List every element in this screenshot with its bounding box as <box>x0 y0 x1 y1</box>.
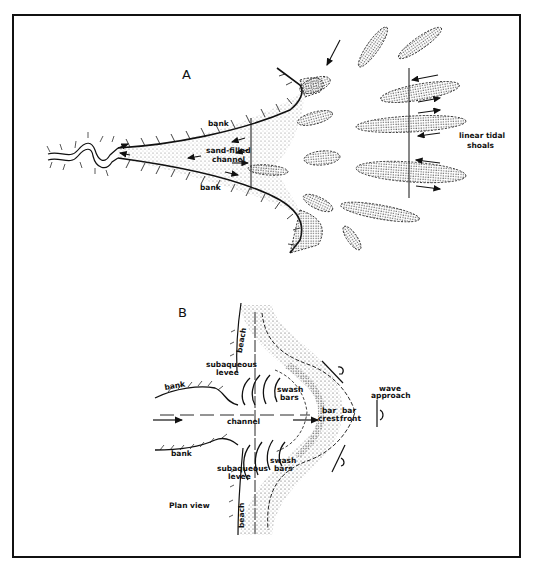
label-channel: channel <box>227 417 260 426</box>
label-bar-front-2: front <box>340 414 361 423</box>
panel-b-letter: B <box>178 305 187 320</box>
label-levee-top-2: levee <box>216 368 239 377</box>
label-plan-view: Plan view <box>169 501 210 510</box>
label-swash-top-2: bars <box>280 393 299 402</box>
label-channel-1: sand-filled <box>206 146 251 155</box>
label-shoals-1: linear tidal <box>459 131 505 140</box>
label-bank-bottom: bank <box>200 183 222 192</box>
panel-a: A <box>47 23 505 253</box>
label-bank-top: bank <box>208 119 230 128</box>
meandering-river <box>48 143 118 167</box>
label-channel-2: channel <box>212 155 245 164</box>
label-wave-2: approach <box>371 391 411 400</box>
panel-a-letter: A <box>182 67 191 82</box>
label-bank-top: bank <box>164 379 187 392</box>
label-beach-top: beach <box>235 327 248 353</box>
diagram-canvas: A <box>0 0 533 571</box>
label-bank-bottom: bank <box>171 449 193 458</box>
panel-b: B <box>153 303 411 535</box>
label-swash-bottom-2: bars <box>274 464 293 473</box>
label-bar-crest-2: crest <box>318 414 340 423</box>
label-levee-bottom-2: levee <box>228 472 251 481</box>
label-beach-bottom: beach <box>237 503 246 528</box>
bank-bottom-line <box>155 438 238 450</box>
label-shoals-2: shoals <box>467 141 495 150</box>
